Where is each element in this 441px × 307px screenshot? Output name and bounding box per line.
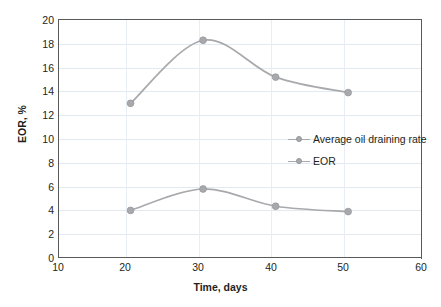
data-point bbox=[200, 37, 207, 44]
chart-container: 20 18 16 14 12 10 8 6 4 2 0 10 20 30 40 … bbox=[0, 0, 441, 307]
data-point bbox=[345, 208, 352, 215]
chart-legend: Average oil draining rate EOR bbox=[288, 128, 427, 172]
legend-marker-icon-1 bbox=[288, 156, 310, 166]
data-point bbox=[272, 74, 279, 81]
series-line-1 bbox=[131, 189, 349, 212]
data-point bbox=[272, 203, 279, 210]
legend-marker-icon-0 bbox=[288, 134, 310, 144]
series-eor bbox=[127, 186, 351, 215]
data-point bbox=[200, 186, 207, 193]
legend-item-eor[interactable]: EOR bbox=[288, 150, 427, 172]
series-line-0 bbox=[131, 40, 349, 103]
series-average-oil-draining-rate bbox=[127, 37, 351, 107]
data-point bbox=[127, 100, 134, 107]
data-point bbox=[127, 207, 134, 214]
data-point bbox=[345, 89, 352, 96]
legend-item-average-oil-draining-rate[interactable]: Average oil draining rate bbox=[288, 128, 427, 150]
legend-label-0: Average oil draining rate bbox=[313, 133, 427, 145]
legend-label-1: EOR bbox=[313, 155, 336, 167]
